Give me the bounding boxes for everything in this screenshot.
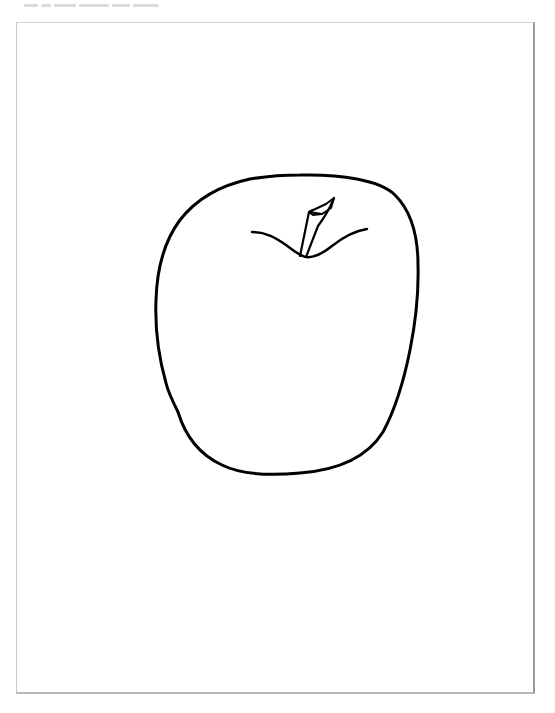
dimple-curve xyxy=(252,229,367,257)
apple-outline xyxy=(156,175,418,474)
apple-drawing xyxy=(0,0,555,713)
